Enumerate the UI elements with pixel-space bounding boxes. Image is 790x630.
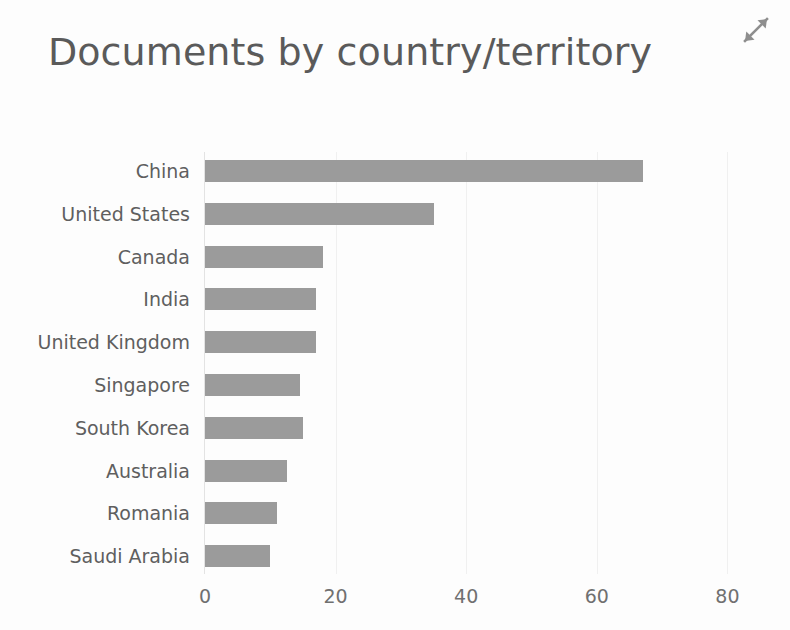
bar[interactable] [205, 545, 270, 567]
category-label: Canada [5, 246, 190, 268]
bar[interactable] [205, 160, 643, 182]
x-tick-label: 0 [175, 585, 235, 607]
bar[interactable] [205, 288, 316, 310]
x-tick-label: 40 [436, 585, 496, 607]
category-label: India [5, 288, 190, 310]
category-label: Australia [5, 460, 190, 482]
chart-card: Documents by country/territory ChinaUnit… [0, 0, 790, 630]
gridline [466, 152, 467, 574]
page-title: Documents by country/territory [0, 30, 700, 74]
bar[interactable] [205, 203, 434, 225]
category-label: Romania [5, 502, 190, 524]
category-label: United States [5, 203, 190, 225]
category-label: South Korea [5, 417, 190, 439]
bar[interactable] [205, 331, 316, 353]
bar[interactable] [205, 460, 287, 482]
bar[interactable] [205, 417, 303, 439]
gridline [597, 152, 598, 574]
bar[interactable] [205, 246, 323, 268]
expand-diagonal-arrows-icon[interactable] [736, 10, 776, 50]
gridline [727, 152, 728, 574]
plot-area: ChinaUnited StatesCanadaIndiaUnited King… [0, 140, 790, 630]
category-label: Saudi Arabia [5, 545, 190, 567]
x-tick-label: 20 [306, 585, 366, 607]
category-label: Singapore [5, 374, 190, 396]
category-label: China [5, 160, 190, 182]
bar[interactable] [205, 502, 277, 524]
bar[interactable] [205, 374, 300, 396]
x-tick-label: 80 [697, 585, 757, 607]
x-tick-label: 60 [567, 585, 627, 607]
category-label: United Kingdom [5, 331, 190, 353]
